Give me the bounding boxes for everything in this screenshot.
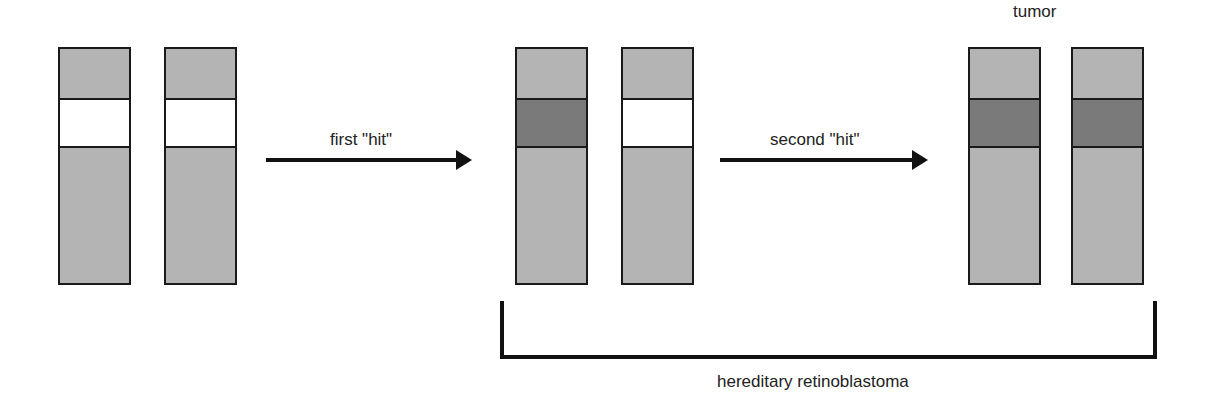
chromosome-arm-top bbox=[623, 49, 692, 98]
chromosome-first-hit-2 bbox=[621, 47, 694, 285]
chromosome-normal-1 bbox=[58, 47, 131, 285]
mutant-locus bbox=[970, 98, 1039, 148]
chromosome-arm-top bbox=[60, 49, 129, 98]
hereditary-retinoblastoma-label: hereditary retinoblastoma bbox=[717, 372, 909, 392]
tumor-label: tumor bbox=[1013, 2, 1056, 22]
chromosome-normal-2 bbox=[164, 47, 237, 285]
second-hit-label: second "hit" bbox=[770, 130, 860, 150]
chromosome-tumor-2 bbox=[1071, 47, 1144, 285]
first-hit-arrow bbox=[266, 158, 458, 162]
first-hit-label: first "hit" bbox=[330, 130, 392, 150]
chromosome-arm-top bbox=[517, 49, 586, 98]
chromosome-arm-bottom bbox=[517, 148, 586, 283]
mutant-locus bbox=[1073, 98, 1142, 148]
chromosome-arm-bottom bbox=[970, 148, 1039, 283]
chromosome-first-hit-1 bbox=[515, 47, 588, 285]
chromosome-arm-top bbox=[1073, 49, 1142, 98]
chromosome-tumor-1 bbox=[968, 47, 1041, 285]
wildtype-locus bbox=[60, 98, 129, 148]
wildtype-locus bbox=[166, 98, 235, 148]
chromosome-arm-top bbox=[166, 49, 235, 98]
second-hit-arrow bbox=[720, 158, 914, 162]
chromosome-arm-bottom bbox=[623, 148, 692, 283]
chromosome-arm-bottom bbox=[1073, 148, 1142, 283]
chromosome-arm-bottom bbox=[166, 148, 235, 283]
hereditary-bracket bbox=[500, 301, 1157, 359]
wildtype-locus bbox=[623, 98, 692, 148]
chromosome-arm-bottom bbox=[60, 148, 129, 283]
mutant-locus bbox=[517, 98, 586, 148]
chromosome-arm-top bbox=[970, 49, 1039, 98]
